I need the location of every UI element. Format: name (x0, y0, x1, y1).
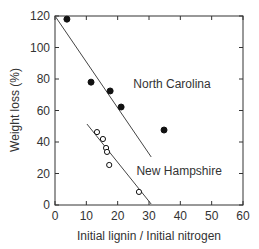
data-point (88, 79, 94, 85)
data-point (136, 189, 141, 194)
x-tick-label: 50 (205, 209, 219, 223)
series-layer: North CarolinaNew Hampshire (55, 16, 222, 204)
y-tick-label: 120 (30, 9, 50, 23)
x-tick-label: 30 (142, 209, 156, 223)
data-point (94, 129, 99, 134)
data-point (107, 88, 113, 94)
data-point (107, 162, 112, 167)
y-tick-label: 20 (37, 167, 51, 181)
x-tick-label: 20 (111, 209, 125, 223)
y-axis-label: Weight loss (%) (8, 68, 22, 152)
y-tick-label: 40 (37, 135, 51, 149)
data-point (118, 104, 124, 110)
data-point (100, 136, 105, 141)
data-point (64, 16, 70, 22)
data-point (104, 149, 109, 154)
y-tick-label: 80 (37, 72, 51, 86)
x-tick-label: 60 (236, 209, 250, 223)
y-tick-label: 60 (37, 104, 51, 118)
y-tick-label: 100 (30, 41, 50, 55)
scatter-chart: 0102030405060 020406080100120 North Caro… (0, 0, 259, 249)
y-tick-label: 0 (43, 198, 50, 212)
x-axis-ticks: 0102030405060 (52, 16, 250, 223)
series-new-hampshire: New Hampshire (87, 124, 222, 204)
x-tick-label: 10 (80, 209, 94, 223)
series-north-carolina: North Carolina (55, 16, 211, 157)
x-axis-label: Initial lignin / Initial nitrogen (77, 229, 221, 243)
x-tick-label: 40 (174, 209, 188, 223)
data-point (161, 127, 167, 133)
x-tick-label: 0 (52, 209, 59, 223)
series-label: New Hampshire (136, 164, 222, 178)
y-axis-ticks: 020406080100120 (30, 9, 243, 212)
series-label: North Carolina (133, 77, 211, 91)
